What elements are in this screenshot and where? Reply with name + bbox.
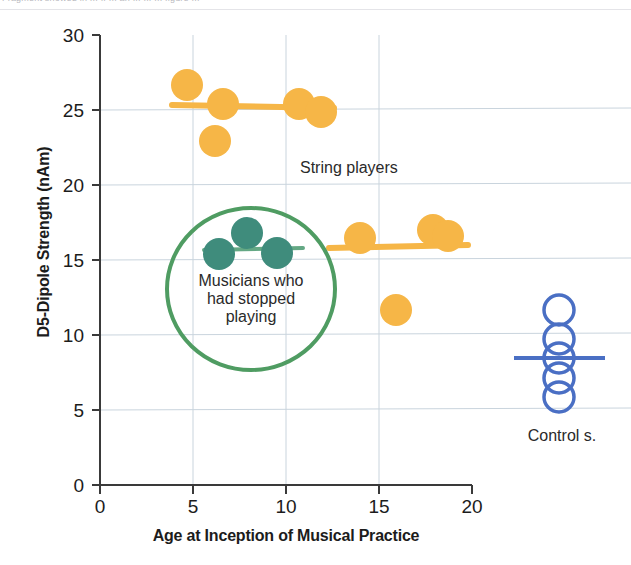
data-point-string-players [380,294,412,326]
control-subjects-label: Control s. [512,427,612,445]
gridline-y-5 [100,408,631,410]
x-tick-label-15: 15 [359,497,399,516]
data-point-string-players [207,88,239,120]
x-tick-label-0: 0 [80,497,120,516]
stopped-musicians-markers [203,217,293,270]
data-point-string-players [283,88,315,120]
scan-artifact-rule [0,9,631,10]
chart-figure: Fragment showed in ... .. ... an ... ...… [0,0,631,565]
stopped-musicians-trend-line [204,248,303,250]
data-point-control-subject [544,295,574,325]
gridline-y-15 [100,258,631,260]
x-tick-label-20: 20 [452,497,492,516]
scan-artifact-strip: Fragment showed in ... .. ... an ... ...… [0,0,631,11]
gridline-y-10 [100,333,631,335]
x-axis-title: Age at Inception of Musical Practice [100,527,472,545]
control-subjects-panel [514,295,605,412]
data-point-stopped-musician [203,238,235,270]
data-point-control-subject [544,363,574,393]
data-point-stopped-musician [231,217,263,249]
data-point-string-players [344,222,376,254]
data-point-control-subject [544,324,574,354]
y-axis-title: D5-Dipole Strength (nAm) [35,112,53,372]
stopped-musicians-label-line2: had stopped [207,290,295,307]
data-point-control-subject [544,382,574,412]
string-players-early-trend-line [172,105,334,108]
scan-artifact-text: Fragment showed in ... .. ... an ... ...… [2,0,200,3]
data-point-stopped-musician [261,237,293,269]
gridlines-horizontal [100,108,631,410]
data-point-string-players [171,69,203,101]
data-point-string-players [417,214,449,246]
string-players-late-trend-line [329,245,468,248]
stopped-musicians-label-line1: Musicians who [199,272,304,289]
y-tick-label-0: 0 [44,476,84,495]
y-tick-label-30: 30 [44,26,84,45]
y-axis [92,35,100,486]
stopped-musicians-label-line3: playing [226,308,277,325]
data-point-string-players [199,125,231,157]
x-tick-label-5: 5 [173,497,213,516]
data-point-control-subject [544,343,574,373]
stopped-musicians-label: Musicians who had stopped playing [171,272,331,326]
gridlines-vertical [193,35,379,485]
x-axis [99,485,472,494]
x-tick-label-10: 10 [266,497,306,516]
gridline-y-25 [100,108,631,110]
data-point-string-players [432,220,464,252]
gridline-y-20 [100,183,631,185]
string-players-label: String players [300,159,398,177]
y-tick-label-5: 5 [44,401,84,420]
data-point-string-players [305,96,337,128]
